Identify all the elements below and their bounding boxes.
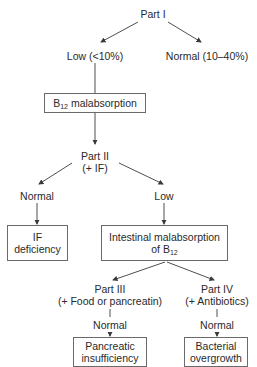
pancreatic-line1: Pancreatic	[85, 340, 135, 352]
node-pancreatic-insufficiency: Pancreatic insufficiency	[73, 337, 147, 367]
node-normal-3: Normal	[93, 319, 127, 331]
node-if-deficiency: IF deficiency	[7, 225, 68, 261]
part-4-condition: (+ Antibiotics)	[185, 295, 248, 307]
node-part-3: Part III (+ Food or pancreatin)	[58, 283, 162, 307]
part-3-condition: (+ Food or pancreatin)	[58, 295, 162, 307]
node-bacterial-overgrowth: Bacterial overgrowth	[184, 337, 248, 367]
node-low-2: Low	[154, 190, 173, 202]
b12-malabsorption-label: B12 malabsorption	[53, 97, 137, 109]
bacterial-line1: Bacterial	[196, 340, 237, 352]
node-normal-4: Normal	[200, 319, 234, 331]
if-deficiency-line1: IF	[33, 231, 42, 243]
part-2-title: Part II	[81, 150, 109, 162]
node-intestinal-malabsorption: Intestinal malabsorption of B12	[101, 225, 228, 261]
part-2-condition: (+ IF)	[81, 162, 109, 174]
node-part-4: Part IV (+ Antibiotics)	[185, 283, 248, 307]
intestinal-line1: Intestinal malabsorption	[109, 231, 220, 243]
intestinal-line2: of B12	[151, 243, 177, 255]
node-low-result: Low (<10%)	[67, 50, 123, 62]
part-4-title: Part IV	[185, 283, 248, 295]
bacterial-line2: overgrowth	[190, 352, 242, 364]
if-deficiency-line2: deficiency	[14, 243, 61, 255]
node-normal-2: Normal	[20, 190, 54, 202]
node-part-1: Part I	[140, 8, 165, 20]
node-b12-malabsorption: B12 malabsorption	[44, 93, 146, 113]
pancreatic-line2: insufficiency	[81, 352, 138, 364]
node-part-2: Part II (+ IF)	[81, 150, 109, 174]
part-3-title: Part III	[58, 283, 162, 295]
node-normal-result: Normal (10–40%)	[166, 50, 248, 62]
